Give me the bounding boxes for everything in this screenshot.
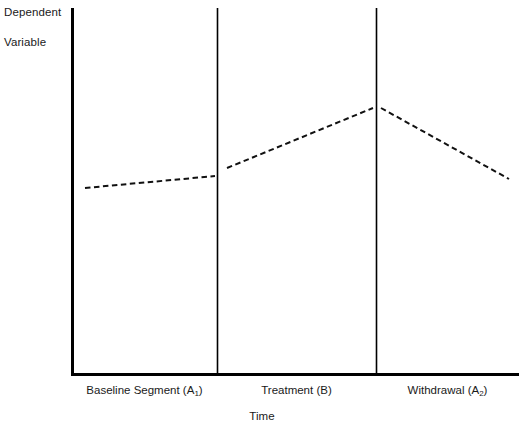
phase-label-withdrawal-text: Withdrawal (A: [408, 384, 480, 396]
phase-label-baseline-subscript: 1: [194, 389, 198, 398]
phase-label-baseline-text: Baseline Segment (A: [86, 384, 194, 396]
phase-label-baseline: Baseline Segment (A1): [72, 384, 217, 396]
trend-line-withdrawal: [381, 108, 509, 179]
phase-label-treatment: Treatment (B): [217, 384, 376, 396]
aba-design-chart: Dependent Variable Baseline Segment (A1)…: [0, 0, 524, 436]
y-axis-label-line1: Dependent: [4, 6, 61, 18]
trend-line-baseline: [85, 176, 215, 188]
trend-line-treatment: [227, 108, 373, 168]
x-axis-title: Time: [0, 410, 524, 422]
phase-label-withdrawal: Withdrawal (A2): [376, 384, 519, 396]
y-axis-label-line2: Variable: [4, 36, 46, 48]
chart-plot-area: [0, 0, 524, 436]
phase-label-withdrawal-subscript: 2: [479, 389, 483, 398]
phase-label-treatment-text: Treatment (B: [261, 384, 328, 396]
phase-label-baseline-suffix: ): [199, 384, 203, 396]
phase-label-treatment-suffix: ): [328, 384, 332, 396]
phase-label-withdrawal-suffix: ): [484, 384, 488, 396]
